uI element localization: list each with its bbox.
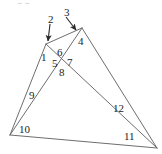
- callout-arrow-3: [66, 17, 76, 30]
- angle-label-6: 6: [57, 47, 63, 58]
- angle-label-4: 4: [78, 36, 84, 47]
- angle-label-12: 12: [113, 103, 124, 114]
- geometry-figure: g g 2 3 1 4 5 6 7 8 9 10 11 12: [0, 0, 162, 154]
- callout-arrow-2: [48, 24, 50, 41]
- angle-label-5: 5: [52, 58, 58, 69]
- angle-label-8: 8: [59, 67, 65, 78]
- angle-label-11: 11: [124, 131, 135, 142]
- segment-base: [10, 135, 157, 148]
- callout-label-2: 2: [48, 14, 54, 25]
- angle-label-9: 9: [29, 90, 35, 101]
- angle-label-10: 10: [19, 124, 30, 135]
- callout-label-3: 3: [64, 7, 70, 18]
- angle-label-1: 1: [41, 52, 47, 63]
- angle-label-7: 7: [67, 57, 73, 68]
